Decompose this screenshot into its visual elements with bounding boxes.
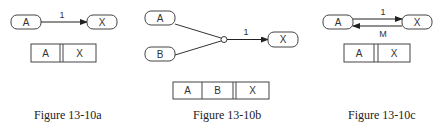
record-box: A B X (173, 82, 269, 99)
figure-13-10a: A 1 X A X (11, 10, 117, 62)
record-field-x: X (249, 85, 256, 96)
record-field-a: A (356, 48, 363, 59)
node-x-label: X (414, 17, 421, 28)
node-b-label: B (157, 49, 164, 60)
node-a-label: A (157, 13, 164, 24)
record-field-x: X (391, 48, 398, 59)
record-box: A X (31, 44, 96, 62)
edge-label-forward: 1 (380, 7, 385, 17)
edge-b-to-junction (175, 41, 221, 55)
node-x-label: X (99, 17, 106, 28)
record-field-a: A (42, 48, 49, 59)
caption-figure-13-10a: Figure 13-10a (34, 108, 102, 123)
node-x-label: X (280, 34, 287, 45)
record-box: A X (344, 44, 410, 62)
figure-13-10c: A 1 M X A X (323, 7, 432, 62)
edge-a-to-junction (175, 24, 221, 38)
edge-label: 1 (243, 27, 248, 37)
edge-label-back: M (379, 29, 387, 39)
junction-node (221, 37, 227, 43)
edge-label: 1 (59, 10, 64, 20)
caption-figure-13-10b: Figure 13-10b (193, 108, 261, 123)
node-a-label: A (23, 17, 30, 28)
record-field-b: B (214, 85, 221, 96)
node-a-label: A (335, 17, 342, 28)
record-field-a: A (184, 85, 191, 96)
record-field-x: X (76, 48, 83, 59)
caption-figure-13-10c: Figure 13-10c (348, 108, 416, 123)
figure-13-10b: A B 1 X A B X (145, 11, 298, 99)
